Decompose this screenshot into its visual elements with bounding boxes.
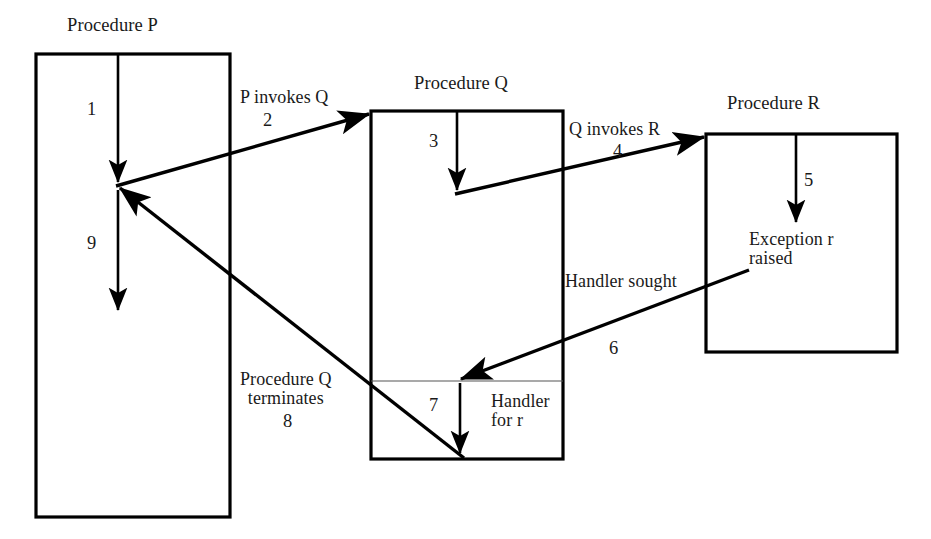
- note-procedure-q-terminates: Procedure Q terminates: [240, 370, 332, 409]
- note-handler-for-r: Handler for r: [491, 392, 550, 431]
- step-number-3: 3: [429, 132, 438, 152]
- note-q-invokes-r: Q invokes R: [569, 120, 660, 139]
- step-number-5: 5: [804, 171, 813, 191]
- step-number-7: 7: [429, 396, 438, 416]
- step-number-6: 6: [609, 339, 618, 359]
- step-number-9: 9: [87, 234, 96, 254]
- procedure-q-title: Procedure Q: [414, 74, 508, 94]
- step-number-1: 1: [87, 100, 96, 120]
- step-number-4: 4: [613, 142, 622, 162]
- step-number-2: 2: [263, 111, 272, 131]
- procedure-p-box: [36, 54, 230, 517]
- procedure-p-title: Procedure P: [67, 16, 158, 36]
- exception-handling-diagram: Procedure P Procedure Q Procedure R P in…: [0, 0, 931, 539]
- note-handler-sought: Handler sought: [565, 272, 677, 291]
- step-number-8: 8: [283, 412, 292, 432]
- note-p-invokes-q: P invokes Q: [240, 88, 328, 107]
- procedure-r-title: Procedure R: [727, 94, 820, 114]
- note-exception-raised: Exception r raised: [749, 230, 834, 269]
